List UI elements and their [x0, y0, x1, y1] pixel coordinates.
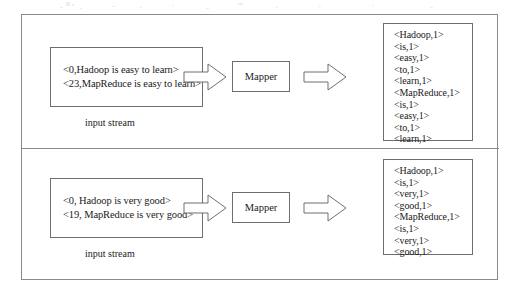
- key-value-pair: <easy,1>: [394, 52, 472, 64]
- stage-panel-bottom: <0, Hadoop is very good> <19, MapReduce …: [22, 149, 499, 281]
- input-stream-line: <19, MapReduce is very good>: [63, 208, 202, 222]
- key-value-pair: <learn,1>: [394, 133, 472, 145]
- key-value-pair: <very,1>: [394, 235, 472, 247]
- input-stream-line: <23,MapReduce is easy to learn>: [63, 77, 202, 91]
- key-value-pair: <Hadoop,1>: [394, 29, 472, 41]
- input-stream-line: <0,Hadoop is easy to learn>: [63, 63, 202, 77]
- arrow-right-icon: [303, 193, 347, 223]
- stage-panel-top: <0,Hadoop is easy to learn> <23,MapReduc…: [22, 15, 499, 149]
- key-value-pair: <easy,1>: [394, 110, 472, 122]
- input-stream-box-bottom: <0, Hadoop is very good> <19, MapReduce …: [50, 178, 203, 238]
- key-value-pair: <good,1>: [394, 200, 472, 212]
- key-value-pair: <to,1>: [394, 122, 472, 134]
- scan-artifact: [0, 0, 509, 12]
- mapper-box-bottom: Mapper: [232, 192, 290, 223]
- diagram-root: <0,Hadoop is easy to learn> <23,MapReduc…: [0, 0, 509, 297]
- key-value-pair: <very,1>: [394, 188, 472, 200]
- input-stream-caption-bottom: input stream: [85, 248, 135, 260]
- key-value-pair: <to,1>: [394, 64, 472, 76]
- arrow-right-icon: [183, 62, 227, 92]
- key-value-pair: <is,1>: [394, 41, 472, 53]
- input-stream-caption-top: input stream: [85, 117, 135, 129]
- arrow-right-icon: [183, 193, 227, 223]
- key-value-pair: <learn,1>: [394, 75, 472, 87]
- key-value-pair: <Hadoop,1>: [394, 165, 472, 177]
- key-value-pair: <MapReduce,1>: [394, 87, 472, 99]
- output-key-value-box-top: <Hadoop,1> <is,1> <easy,1> <to,1> <learn…: [383, 23, 473, 141]
- key-value-pair: <good,1>: [394, 246, 472, 258]
- mapper-box-top: Mapper: [232, 61, 290, 92]
- input-stream-box-top: <0,Hadoop is easy to learn> <23,MapReduc…: [50, 47, 203, 107]
- mapper-label: Mapper: [245, 202, 278, 213]
- key-value-pair: <is,1>: [394, 99, 472, 111]
- diagram-outer-frame: <0,Hadoop is easy to learn> <23,MapReduc…: [21, 14, 498, 280]
- output-key-value-box-bottom: <Hadoop,1> <is,1> <very,1> <good,1> <Map…: [383, 159, 473, 255]
- mapper-label: Mapper: [245, 71, 278, 82]
- arrow-right-icon: [303, 62, 347, 92]
- key-value-pair: <is,1>: [394, 177, 472, 189]
- input-stream-line: <0, Hadoop is very good>: [63, 194, 202, 208]
- key-value-pair: <MapReduce,1>: [394, 211, 472, 223]
- key-value-pair: <is,1>: [394, 223, 472, 235]
